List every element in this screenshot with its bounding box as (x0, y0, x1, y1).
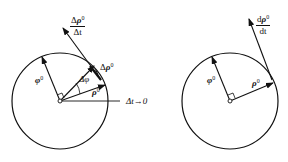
superscript: 0 (266, 14, 269, 20)
left-origin (58, 99, 62, 103)
superscript: 0 (97, 87, 100, 93)
superscript: 0 (110, 62, 113, 68)
left-phi-vector (42, 57, 60, 101)
left-delta-rho-label: Δρ0 (100, 62, 113, 72)
left-panel (12, 28, 120, 149)
right-origin (228, 99, 232, 103)
right-panel (182, 19, 278, 149)
right-derivative-label: dρ0 dt (256, 14, 270, 36)
superscript: 0 (40, 75, 43, 81)
left-angle-label: Δφ (79, 75, 89, 84)
right-rho-label: ρ0 (252, 78, 260, 88)
dt: dt (256, 26, 270, 36)
left-rate-label: Δρ0 Δt (70, 15, 85, 37)
superscript: 0 (212, 75, 215, 81)
right-phi-label: φ0 (207, 75, 215, 85)
left-rho-label: ρ0 (92, 87, 100, 97)
left-phi-label: φ0 (35, 75, 43, 85)
superscript: 0 (257, 78, 260, 84)
superscript: 0 (81, 15, 84, 21)
delta-t: Δt (70, 27, 85, 37)
left-limit-label: Δt→0 (126, 97, 147, 106)
